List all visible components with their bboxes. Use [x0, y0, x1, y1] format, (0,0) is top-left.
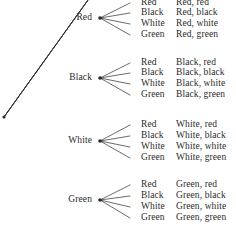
- level1-vertex-dot-green: [98, 198, 102, 202]
- branch-green-to-green-3: [100, 200, 130, 218]
- level2-node-black-black: Black: [141, 68, 164, 78]
- level2-node-green-green: Green: [141, 213, 165, 223]
- outcome-green-red: Green, red: [176, 180, 217, 190]
- outcome-green-black: Green, black: [176, 191, 226, 201]
- branch-red-to-green-3: [100, 18, 130, 35]
- branch-red-to-white-2: [100, 18, 130, 24]
- outcome-green-white: Green, white: [176, 202, 226, 212]
- outcome-red-green: Red, green: [176, 30, 218, 40]
- level2-node-black-white: White: [141, 79, 165, 89]
- branch-white-to-white-2: [100, 141, 130, 147]
- branch-line-group: [4, 0, 130, 218]
- level2-node-red-black: Black: [141, 8, 164, 18]
- outcome-red-white: Red, white: [176, 19, 218, 29]
- level1-node-black: Black: [50, 73, 92, 83]
- branch-white-to-green-3: [100, 141, 130, 158]
- level1-node-green: Green: [50, 195, 92, 205]
- level2-node-green-red: Red: [141, 180, 157, 190]
- tree-diagram: Red Black White Green RedRed, redBlackRe…: [0, 0, 236, 234]
- level1-vertex-dot-white: [98, 139, 102, 143]
- branch-black-to-green-3: [100, 78, 130, 95]
- outcome-black-white: Black, white: [176, 79, 225, 89]
- outcome-green-green: Green, green: [176, 213, 226, 223]
- level2-node-white-red: Red: [141, 120, 157, 130]
- outcome-black-green: Black, green: [176, 90, 225, 100]
- level1-node-white: White: [50, 136, 92, 146]
- branch-black-to-white-2: [100, 78, 130, 84]
- level2-node-red-green: Green: [141, 30, 165, 40]
- branch-green-to-white-2: [100, 200, 130, 207]
- vertex-dot-group: [2, 16, 101, 202]
- level2-node-white-white: White: [141, 142, 165, 152]
- outcome-white-red: White, red: [176, 120, 217, 130]
- outcome-white-green: White, green: [176, 153, 226, 163]
- level2-node-black-green: Green: [141, 90, 165, 100]
- root-node-dot: [2, 115, 5, 118]
- level2-node-green-white: White: [141, 202, 165, 212]
- level1-vertex-dot-red: [98, 16, 102, 20]
- outcome-white-white: White, white: [176, 142, 226, 152]
- level1-node-red: Red: [50, 13, 92, 23]
- level2-node-white-green: Green: [141, 153, 165, 163]
- outcome-white-black: White, black: [176, 131, 226, 141]
- level2-node-red-white: White: [141, 19, 165, 29]
- level1-vertex-dot-black: [98, 76, 102, 80]
- level2-node-white-black: Black: [141, 131, 164, 141]
- outcome-red-black: Red, black: [176, 8, 218, 18]
- level2-node-green-black: Black: [141, 191, 164, 201]
- outcome-black-black: Black, black: [176, 68, 225, 78]
